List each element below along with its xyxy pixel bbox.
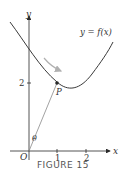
figure-caption: FIGURE 15	[0, 160, 126, 170]
curve-label: y = f(x)	[79, 27, 112, 37]
y-tick-label-2: 2	[19, 78, 24, 88]
angle-label: θ	[32, 134, 37, 143]
y-axis-label: y	[25, 9, 32, 19]
point-label: P	[55, 87, 62, 97]
motion-arrow-icon	[44, 58, 61, 71]
x-axis-label: x	[113, 146, 118, 156]
figure-canvas: y x y = f(x) P θ O 1 2 2	[0, 0, 126, 178]
point-p	[55, 81, 59, 85]
